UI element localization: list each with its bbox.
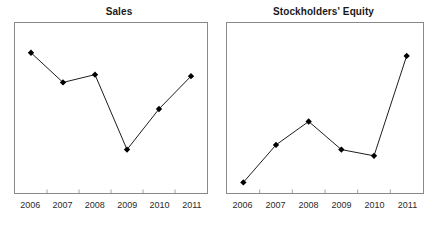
plot-area-stockholders-equity <box>226 22 424 194</box>
x-tick-label: 2011 <box>391 198 424 212</box>
plot-area-sales <box>14 22 208 194</box>
series-line <box>243 56 406 182</box>
x-tick-label: 2010 <box>143 198 175 212</box>
x-tick-label: 2006 <box>226 198 259 212</box>
x-tick-label: 2008 <box>79 198 111 212</box>
data-point-marker <box>371 153 377 159</box>
x-axis-labels-stockholders-equity: 2006 2007 2008 2009 2010 2011 <box>226 198 424 212</box>
two-panel-line-chart-figure: Sales 2006 2007 2008 2009 2010 2011 Stoc… <box>0 0 435 229</box>
x-tick-label: 2010 <box>358 198 391 212</box>
x-tick-label: 2011 <box>176 198 208 212</box>
x-tick-label: 2006 <box>14 198 46 212</box>
chart-panel-stockholders-equity: Stockholders' Equity 2006 2007 2008 2009… <box>212 0 435 229</box>
line-series-stockholders-equity <box>227 23 423 193</box>
chart-title-sales: Sales <box>0 6 228 17</box>
data-point-marker <box>92 71 98 77</box>
chart-panel-sales: Sales 2006 2007 2008 2009 2010 2011 <box>0 0 218 229</box>
line-series-sales <box>15 23 207 193</box>
x-tick-label: 2009 <box>325 198 358 212</box>
chart-title-stockholders-equity: Stockholders' Equity <box>212 6 435 17</box>
x-axis-labels-sales: 2006 2007 2008 2009 2010 2011 <box>14 198 208 212</box>
series-line <box>31 53 191 150</box>
data-point-marker <box>403 53 409 59</box>
x-tick-label: 2009 <box>111 198 143 212</box>
x-tick-label: 2007 <box>46 198 78 212</box>
x-tick-label: 2008 <box>292 198 325 212</box>
x-tick-label: 2007 <box>259 198 292 212</box>
